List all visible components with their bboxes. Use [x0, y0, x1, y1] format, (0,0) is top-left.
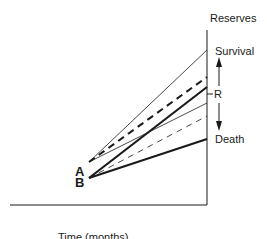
point-b-label: B — [75, 176, 84, 189]
arrow-up-icon — [216, 57, 222, 67]
threshold-label: R — [214, 89, 222, 100]
line-a-dashed — [89, 77, 207, 162]
death-label: Death — [215, 134, 244, 145]
line-b-upper — [89, 87, 207, 178]
survival-label: Survival — [215, 46, 254, 57]
line-b-dashed — [89, 116, 207, 178]
reserves-diagram — [0, 0, 267, 239]
x-axis-label: Time (months) — [58, 232, 129, 239]
y-axis-label: Reserves — [210, 13, 256, 24]
arrow-down-icon — [216, 121, 222, 131]
